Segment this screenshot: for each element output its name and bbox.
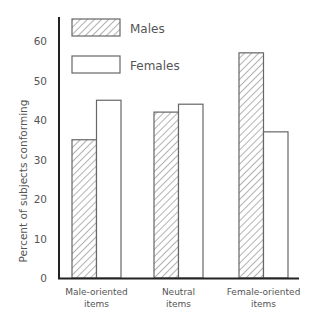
y-axis-ticks: 0102030405060 (34, 35, 47, 284)
x-category-label: Neutral (162, 287, 195, 297)
bar-females-1 (179, 104, 204, 278)
y-tick-label: 50 (34, 75, 47, 87)
bar-males-0 (72, 140, 97, 278)
legend-label-males: Males (130, 22, 165, 36)
y-tick-label: 10 (34, 233, 47, 245)
x-axis-category-labels: Male-orienteditemsNeutralitemsFemale-ori… (65, 287, 300, 309)
legend-swatch-females (72, 56, 120, 73)
x-category-label: items (166, 299, 191, 309)
y-axis-title: Percent of subjects conforming (17, 100, 29, 263)
legend-swatch-males (72, 19, 120, 36)
bar-males-2 (239, 53, 264, 278)
y-tick-label: 40 (34, 114, 47, 126)
x-category-label: Female-oriented (227, 287, 301, 297)
bars (72, 53, 288, 278)
bar-chart: Percent of subjects conforming 010203040… (0, 0, 314, 322)
y-tick-label: 20 (34, 193, 47, 205)
bar-females-0 (97, 100, 122, 278)
y-tick-label: 30 (34, 154, 47, 166)
y-tick-label: 0 (40, 272, 47, 284)
x-category-label: items (251, 299, 276, 309)
y-tick-label: 60 (34, 35, 47, 47)
bar-females-2 (264, 132, 289, 278)
y-axis-label: Percent of subjects conforming (17, 100, 29, 263)
legend: MalesFemales (72, 19, 180, 73)
bar-males-1 (154, 112, 179, 278)
x-category-label: Male-oriented (65, 287, 127, 297)
legend-label-females: Females (130, 59, 180, 73)
x-category-label: items (84, 299, 109, 309)
